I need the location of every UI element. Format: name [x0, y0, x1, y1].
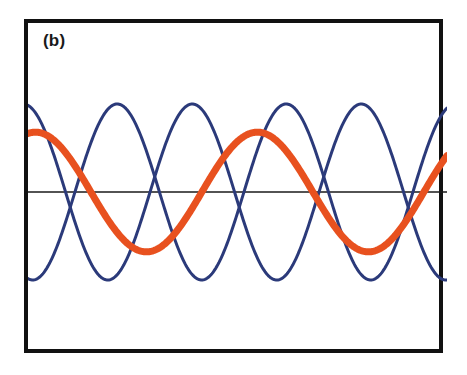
panel-label: (b) [43, 32, 65, 49]
plot-frame: (b) [24, 19, 443, 353]
figure-root: (b) [0, 0, 467, 375]
waveform-plot [28, 23, 447, 357]
